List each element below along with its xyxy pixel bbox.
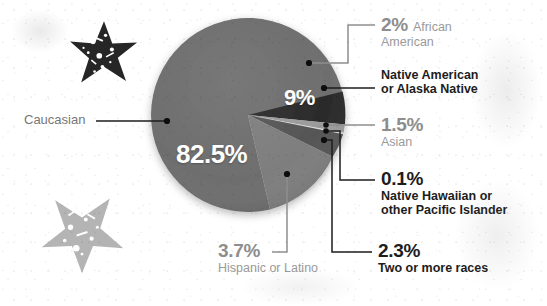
label-hispanic-or-latino-pct: 3.7% bbox=[218, 240, 318, 261]
label-hispanic-or-latino-name: Hispanic or Latino bbox=[218, 261, 318, 275]
label-native-hawaiian-name-line2: other Pacific Islander bbox=[381, 203, 507, 217]
star-decoration-bottom bbox=[34, 186, 130, 278]
label-african-american-pct: 2% bbox=[381, 14, 408, 35]
leader-dot-hispanic-or-latino bbox=[284, 171, 290, 177]
label-native-american-name-line2: or Alaska Native bbox=[381, 82, 479, 96]
label-asian-pct: 1.5% bbox=[381, 114, 423, 135]
leader-dot-native-hawaiian bbox=[323, 128, 329, 134]
label-african-american-name-line1: African bbox=[413, 20, 452, 35]
label-native-american: Native American or Alaska Native bbox=[381, 68, 479, 96]
leader-african-american bbox=[310, 25, 375, 63]
label-hispanic-or-latino: 3.7% Hispanic or Latino bbox=[218, 240, 318, 275]
label-two-or-more-races-pct: 2.3% bbox=[378, 240, 488, 261]
label-caucasian: Caucasian bbox=[24, 113, 85, 128]
infographic-pie-chart: 82.5% 9% bbox=[0, 0, 547, 306]
leader-dot-asian bbox=[323, 122, 329, 128]
leader-dot-native-american bbox=[321, 85, 327, 91]
label-two-or-more-races: 2.3% Two or more races bbox=[378, 240, 488, 275]
label-asian-name: Asian bbox=[381, 135, 423, 149]
label-native-hawaiian-name-line1: Native Hawaiian or bbox=[381, 189, 507, 203]
leader-dot-two-or-more-races bbox=[321, 137, 327, 143]
label-asian: 1.5% Asian bbox=[381, 114, 423, 149]
label-native-hawaiian-pct: 0.1% bbox=[381, 168, 507, 189]
label-african-american-name-line2: American bbox=[381, 35, 452, 50]
leader-dot-caucasian bbox=[164, 118, 170, 124]
label-native-american-name-line1: Native American bbox=[381, 68, 479, 82]
star-decoration-top bbox=[62, 18, 146, 92]
label-african-american: 2% African American bbox=[381, 14, 452, 50]
leader-dots bbox=[164, 60, 329, 177]
leader-dot-african-american bbox=[306, 60, 312, 66]
leader-native-hawaiian bbox=[327, 131, 375, 180]
label-native-hawaiian: 0.1% Native Hawaiian or other Pacific Is… bbox=[381, 168, 507, 217]
leader-two-or-more-races bbox=[325, 140, 372, 252]
label-two-or-more-races-name: Two or more races bbox=[378, 261, 488, 275]
